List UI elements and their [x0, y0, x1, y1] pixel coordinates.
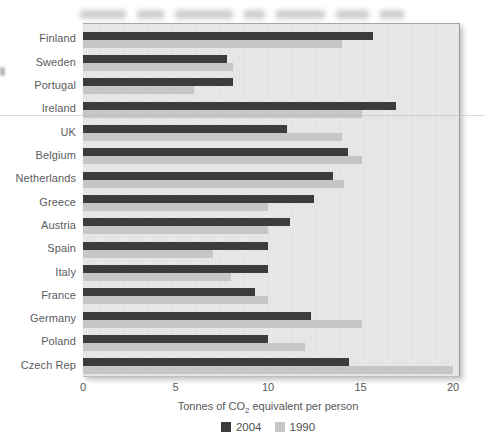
bar-1990-greece	[83, 203, 268, 211]
legend-swatch-1990	[275, 422, 285, 432]
scanned-page: FinlandSwedenPortugalIrelandUKBelgiumNet…	[0, 0, 485, 442]
bar-2004-greece	[83, 195, 314, 203]
legend-swatch-2004	[221, 422, 231, 432]
category-label-france: France	[0, 289, 76, 302]
bar-1990-ireland	[83, 110, 362, 118]
ghost-blob	[336, 10, 369, 19]
x-axis-title-text: equivalent per person	[249, 400, 358, 412]
x-tick-20: 20	[438, 381, 468, 393]
bar-2004-czech-rep	[83, 358, 349, 366]
bar-2004-uk	[83, 125, 287, 133]
category-label-austria: Austria	[0, 219, 76, 232]
scan-artifact-line	[0, 115, 485, 116]
page-showthrough-ghost-text	[80, 6, 425, 22]
bar-2004-sweden	[83, 55, 227, 63]
bar-2004-france	[83, 288, 255, 296]
category-label-ireland: Ireland	[0, 102, 76, 115]
ghost-blob	[175, 10, 233, 19]
category-label-portugal: Portugal	[0, 79, 76, 92]
plot-area	[83, 23, 460, 377]
bar-2004-netherlands	[83, 172, 333, 180]
category-label-spain: Spain	[0, 242, 76, 255]
category-label-belgium: Belgium	[0, 149, 76, 162]
bar-2004-finland	[83, 32, 373, 40]
x-axis-title: Tonnes of CO2 equivalent per person	[83, 400, 453, 412]
bar-1990-uk	[83, 133, 342, 141]
bar-1990-netherlands	[83, 180, 344, 188]
category-label-czech-rep: Czech Rep	[0, 359, 76, 372]
bar-1990-czech-rep	[83, 366, 453, 374]
category-label-sweden: Sweden	[0, 56, 76, 69]
x-axis-title-text: Tonnes of CO	[178, 400, 245, 412]
category-label-greece: Greece	[0, 196, 76, 209]
bar-2004-poland	[83, 335, 268, 343]
x-tick-15: 15	[346, 381, 376, 393]
bar-1990-france	[83, 296, 268, 304]
bar-2004-ireland	[83, 102, 396, 110]
category-label-poland: Poland	[0, 335, 76, 348]
ghost-blob	[80, 10, 126, 19]
bar-2004-spain	[83, 242, 268, 250]
legend-item-2004: 2004	[221, 421, 262, 433]
legend-item-1990: 1990	[275, 421, 316, 433]
ghost-blob	[137, 10, 164, 19]
category-label-germany: Germany	[0, 312, 76, 325]
bar-1990-austria	[83, 226, 268, 234]
legend: 20041990	[83, 420, 453, 434]
bar-2004-germany	[83, 312, 311, 320]
x-tick-10: 10	[253, 381, 283, 393]
legend-label-1990: 1990	[290, 421, 316, 433]
x-tick-0: 0	[68, 381, 98, 393]
bar-2004-belgium	[83, 148, 348, 156]
legend-label-2004: 2004	[236, 421, 262, 433]
x-tick-5: 5	[161, 381, 191, 393]
bar-1990-sweden	[83, 63, 233, 71]
bar-1990-portugal	[83, 86, 194, 94]
ghost-blob	[380, 10, 404, 19]
bar-2004-italy	[83, 265, 268, 273]
category-label-italy: Italy	[0, 266, 76, 279]
category-label-netherlands: Netherlands	[0, 172, 76, 185]
bar-2004-austria	[83, 218, 290, 226]
bar-1990-belgium	[83, 156, 362, 164]
category-label-finland: Finland	[0, 32, 76, 45]
bar-1990-germany	[83, 320, 362, 328]
bar-2004-portugal	[83, 78, 233, 86]
category-label-uk: UK	[0, 126, 76, 139]
ghost-blob	[244, 10, 265, 19]
bar-1990-finland	[83, 40, 342, 48]
bar-1990-poland	[83, 343, 305, 351]
ghost-blob	[276, 10, 325, 19]
bar-1990-italy	[83, 273, 231, 281]
bar-1990-spain	[83, 250, 213, 258]
x-axis-title-subscript: 2	[245, 406, 249, 415]
